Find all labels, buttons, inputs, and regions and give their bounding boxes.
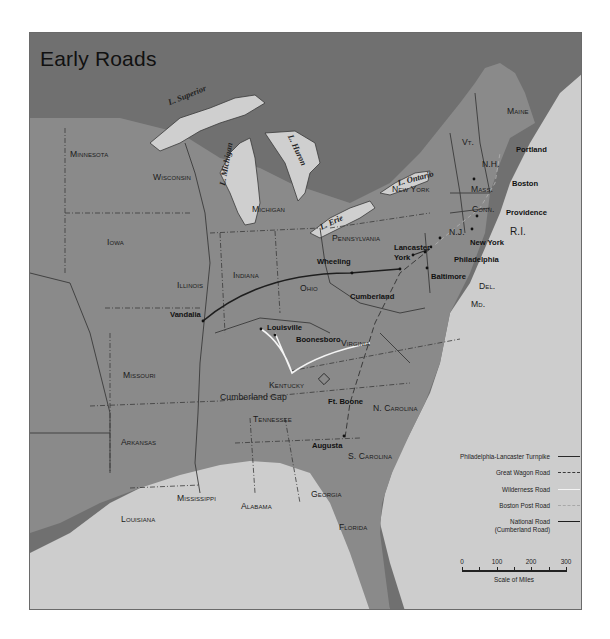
city-label-boonesboro: Boonesboro bbox=[296, 335, 341, 344]
city-label-augusta: Augusta bbox=[312, 441, 342, 450]
legend-swatch-wilderness-road bbox=[558, 489, 580, 490]
early-roads-map: Early Roads Minnesota Wisconsin Michigan… bbox=[29, 32, 582, 610]
city-label-philadelphia: Philadelphia bbox=[454, 255, 499, 264]
state-label-mississippi: Mississippi bbox=[177, 493, 216, 503]
state-label-georgia: Georgia bbox=[311, 489, 342, 499]
state-label-conn: Conn. bbox=[472, 204, 494, 214]
state-label-nj: N.J. bbox=[449, 227, 465, 237]
state-label-michigan: Michigan bbox=[252, 204, 285, 214]
state-label-pennsylvania: Pennsylvania bbox=[332, 233, 380, 243]
state-label-florida: Florida bbox=[339, 522, 367, 532]
city-label-lancaster: Lancaster bbox=[394, 243, 430, 252]
state-label-s-carolina: S. Carolina bbox=[348, 451, 392, 461]
legend-swatch-turnpike bbox=[558, 456, 580, 457]
city-label-wheeling: Wheeling bbox=[317, 257, 351, 266]
legend-swatch-national-road bbox=[558, 521, 580, 522]
state-label-virginia: Virginia bbox=[341, 338, 370, 348]
state-label-missouri: Missouri bbox=[123, 370, 156, 380]
state-label-kentucky: Kentucky bbox=[269, 380, 304, 390]
state-label-indiana: Indiana bbox=[233, 270, 259, 280]
city-label-baltimore: Baltimore bbox=[431, 272, 466, 281]
legend-item-boston-post-road: Boston Post Road bbox=[499, 502, 580, 510]
state-label-louisiana: Louisiana bbox=[121, 514, 155, 524]
state-label-wisconsin: Wisconsin bbox=[153, 172, 191, 182]
legend-item-great-wagon-road: Great Wagon Road bbox=[496, 469, 580, 477]
state-label-ohio: Ohio bbox=[300, 283, 318, 293]
city-label-york: York bbox=[394, 253, 410, 262]
state-label-vt: Vt. bbox=[462, 137, 474, 147]
city-label-cumberland: Cumberland bbox=[350, 292, 394, 301]
legend-item-turnpike: Philadelphia-Lancaster Turnpike bbox=[460, 453, 580, 461]
state-label-arkansas: Arkansas bbox=[121, 437, 156, 447]
city-label-cumberland-gap: Cumberland Gap bbox=[220, 392, 287, 402]
state-label-mass: Mass. bbox=[471, 184, 493, 194]
state-label-minnesota: Minnesota bbox=[70, 149, 108, 159]
state-label-n-carolina: N. Carolina bbox=[373, 403, 418, 413]
state-label-iowa: Iowa bbox=[107, 237, 124, 247]
state-label-ri: R.I. bbox=[510, 226, 526, 237]
legend-swatch-boston-post-road bbox=[558, 505, 580, 506]
legend-swatch-great-wagon-road bbox=[558, 472, 580, 473]
legend-item-wilderness-road: Wilderness Road bbox=[502, 486, 580, 494]
city-label-boston: Boston bbox=[512, 179, 538, 188]
state-label-maine: Maine bbox=[507, 106, 529, 116]
state-label-tennessee: Tennessee bbox=[253, 414, 292, 424]
state-label-illinois: Illinois bbox=[177, 280, 203, 290]
state-label-md: Md. bbox=[471, 299, 485, 309]
city-label-providence: Providence bbox=[506, 208, 547, 217]
city-label-louisville: Louisville bbox=[267, 323, 302, 332]
city-label-vandalia: Vandalia bbox=[170, 310, 201, 319]
map-title: Early Roads bbox=[40, 47, 157, 71]
city-label-ft-boone: Ft. Boone bbox=[328, 397, 363, 406]
city-label-portland: Portland bbox=[516, 145, 547, 154]
state-label-del: Del. bbox=[479, 281, 495, 291]
state-label-nh: N.H. bbox=[482, 159, 500, 169]
state-label-alabama: Alabama bbox=[241, 501, 272, 511]
city-label-new-york: New York bbox=[470, 238, 504, 247]
legend-item-national-road: National Road (Cumberland Road) bbox=[495, 518, 580, 534]
